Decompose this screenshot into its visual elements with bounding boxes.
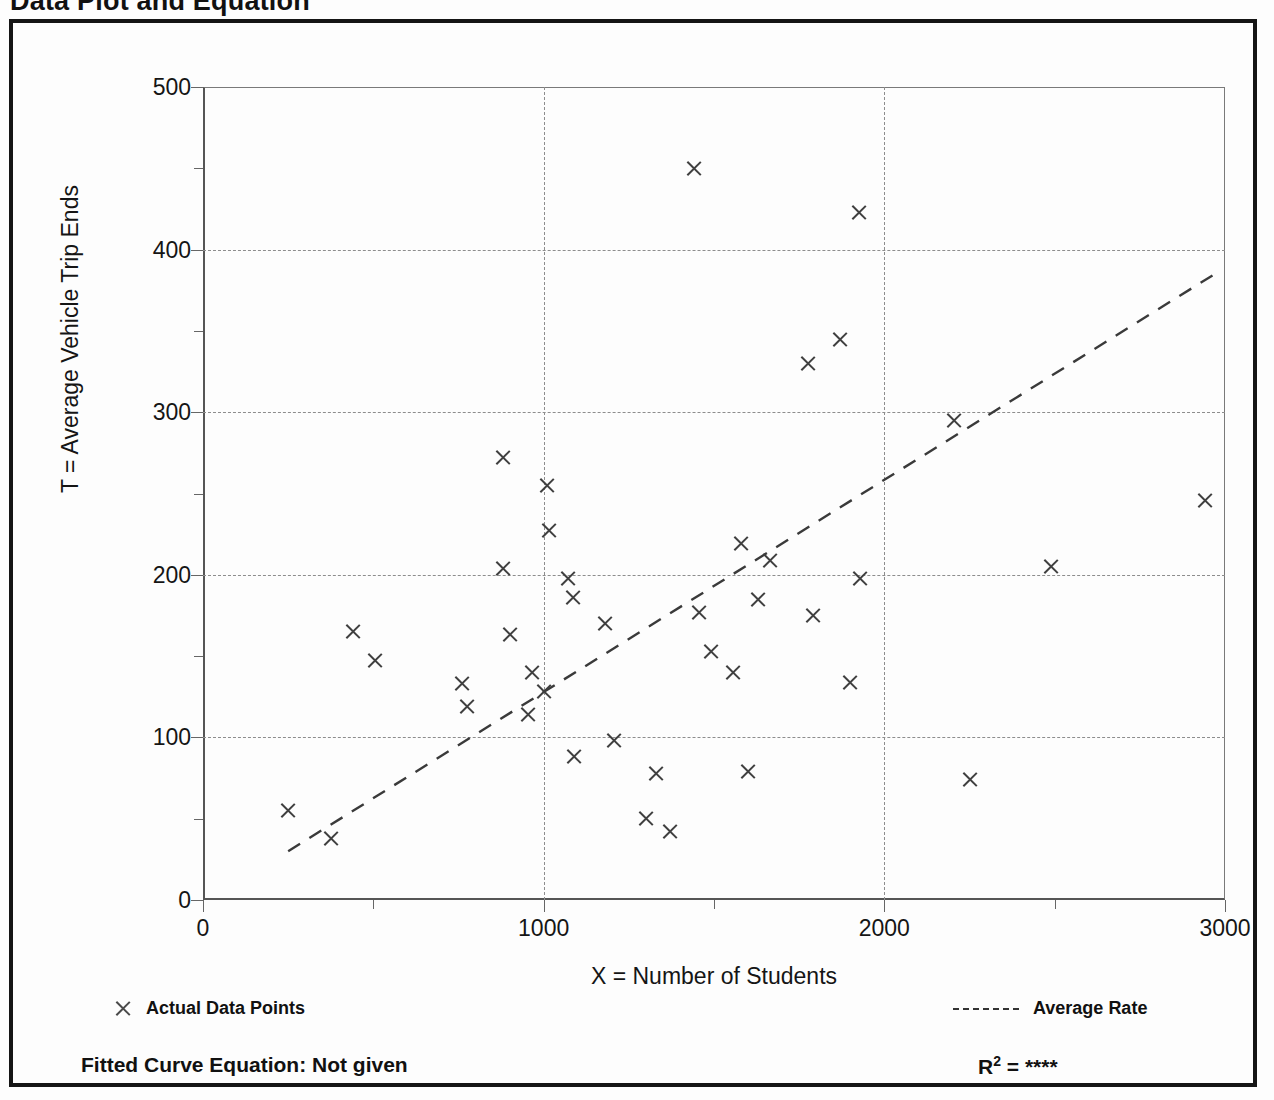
data-point-marker	[684, 159, 703, 178]
x-axis-tick-label: 2000	[839, 915, 929, 942]
data-point-marker	[761, 551, 780, 570]
data-point-marker	[739, 762, 758, 781]
y-axis-tick-label: 500	[121, 74, 191, 101]
data-point-marker	[538, 476, 557, 495]
data-point-marker	[841, 673, 860, 692]
plot-area: 0100200300400500 0100020003000	[203, 87, 1225, 900]
data-point-marker	[604, 731, 623, 750]
r2-equals: =	[1001, 1055, 1025, 1078]
x-axis-tick-label: 1000	[499, 915, 589, 942]
fitted-curve-equation: Fitted Curve Equation: Not given	[81, 1053, 408, 1077]
chart-legend: Actual Data Points Average Rate	[13, 998, 1253, 1038]
data-point-marker	[366, 651, 385, 670]
dashed-line-icon	[953, 1008, 1019, 1010]
data-point-marker	[522, 663, 541, 682]
data-point-marker	[539, 521, 558, 540]
y-axis-tick	[191, 250, 203, 251]
y-axis-tick-label: 200	[121, 561, 191, 588]
data-point-marker	[452, 674, 471, 693]
x-axis-minor-tick	[1055, 900, 1056, 909]
data-point-marker	[960, 770, 979, 789]
data-point-marker	[660, 822, 679, 841]
average-rate-line	[203, 87, 1225, 900]
y-axis-tick	[191, 575, 203, 576]
y-axis-tick-label: 300	[121, 399, 191, 426]
x-axis-tick	[884, 900, 885, 912]
data-point-marker	[723, 663, 742, 682]
data-point-marker	[279, 801, 298, 820]
figure-border: 0100200300400500 0100020003000 T = Avera…	[9, 19, 1257, 1087]
y-axis-minor-tick	[194, 656, 203, 657]
y-axis-tick	[191, 87, 203, 88]
figure-page: Data Plot and Equation 0100200300400500 …	[0, 0, 1274, 1100]
y-axis-tick-label: 400	[121, 236, 191, 263]
data-point-marker	[701, 642, 720, 661]
y-axis-minor-tick	[194, 331, 203, 332]
data-point-marker	[1042, 557, 1061, 576]
legend-label-actual-data-points: Actual Data Points	[146, 998, 305, 1019]
y-axis-minor-tick	[194, 168, 203, 169]
equation-footer: Fitted Curve Equation: Not given R2 = **…	[13, 1053, 1253, 1093]
data-point-marker	[689, 603, 708, 622]
y-axis-minor-tick	[194, 819, 203, 820]
x-axis-tick-label: 3000	[1180, 915, 1270, 942]
data-point-marker	[534, 682, 553, 701]
data-point-marker	[851, 569, 870, 588]
x-axis-tick	[544, 900, 545, 912]
data-point-marker	[493, 559, 512, 578]
y-axis-tick-label: 100	[121, 724, 191, 751]
x-axis-tick	[203, 900, 204, 912]
legend-item-average-rate[interactable]: Average Rate	[953, 998, 1147, 1019]
data-point-marker	[563, 588, 582, 607]
y-axis-title: T = Average Vehicle Trip Ends	[57, 185, 84, 493]
data-point-marker	[595, 614, 614, 633]
data-point-marker	[636, 809, 655, 828]
data-point-marker	[565, 747, 584, 766]
data-point-marker	[1195, 491, 1214, 510]
page-title: Data Plot and Equation	[10, 0, 310, 17]
data-point-marker	[849, 203, 868, 222]
y-axis-tick	[191, 737, 203, 738]
x-axis-minor-tick	[714, 900, 715, 909]
x-axis-tick-label: 0	[158, 915, 248, 942]
r2-prefix: R	[978, 1055, 993, 1078]
r-squared-value: R2 = ****	[978, 1053, 1058, 1079]
data-point-marker	[647, 764, 666, 783]
data-point-marker	[803, 606, 822, 625]
y-axis-minor-tick	[194, 494, 203, 495]
r2-exponent: 2	[993, 1053, 1001, 1069]
legend-label-average-rate: Average Rate	[1033, 998, 1147, 1019]
data-point-marker	[321, 829, 340, 848]
x-axis-title: X = Number of Students	[203, 963, 1225, 990]
legend-item-actual-data-points[interactable]: Actual Data Points	[113, 998, 305, 1019]
data-point-marker	[343, 622, 362, 641]
data-point-marker	[493, 448, 512, 467]
data-point-marker	[458, 697, 477, 716]
data-point-marker	[831, 330, 850, 349]
data-point-marker	[519, 705, 538, 724]
y-axis-tick	[191, 900, 203, 901]
x-axis-minor-tick	[373, 900, 374, 909]
data-point-marker	[798, 354, 817, 373]
x-marker-icon	[113, 999, 132, 1018]
data-point-marker	[749, 590, 768, 609]
y-axis-tick	[191, 412, 203, 413]
x-axis-tick	[1225, 900, 1226, 912]
data-point-marker	[732, 534, 751, 553]
data-point-marker	[945, 411, 964, 430]
r2-stars: ****	[1025, 1055, 1058, 1078]
data-point-marker	[500, 625, 519, 644]
y-axis-tick-label: 0	[121, 887, 191, 914]
data-point-marker	[558, 569, 577, 588]
